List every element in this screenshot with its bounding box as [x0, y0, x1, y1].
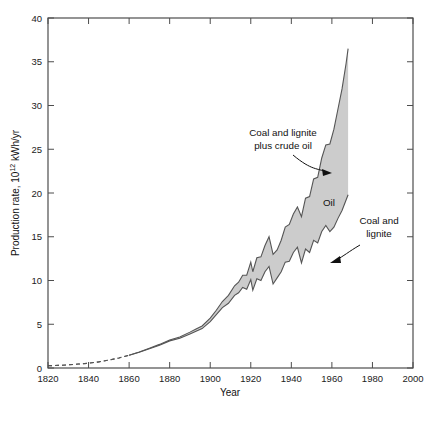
y-axis-tick-labels: 0510152025303540 — [31, 13, 42, 374]
total-annotation-line2: plus crude oil — [254, 140, 312, 151]
y-tick-label: 20 — [31, 188, 42, 199]
x-tick-label: 1840 — [78, 373, 99, 384]
y-tick-label: 30 — [31, 100, 42, 111]
total-annotation-line1: Coal and lignite — [249, 127, 317, 138]
x-axis-tick-labels: 1820184018601880190019201940196019802000 — [37, 373, 423, 384]
figure-caption-ghost — [0, 413, 436, 422]
x-tick-label: 1940 — [281, 373, 302, 384]
x-tick-label: 1880 — [159, 373, 180, 384]
y-tick-label: 5 — [37, 319, 42, 330]
x-tick-label: 2000 — [402, 373, 423, 384]
y-tick-label: 40 — [31, 13, 42, 24]
production-rate-chart: 1820184018601880190019201940196019802000… — [0, 0, 436, 422]
y-tick-label: 35 — [31, 56, 42, 67]
coal-annotation-line2: lignite — [366, 228, 392, 239]
x-tick-label: 1960 — [321, 373, 342, 384]
plot-background — [48, 18, 413, 368]
x-axis-title: Year — [220, 387, 241, 398]
y-tick-label: 10 — [31, 275, 42, 286]
y-axis-title: Production rate, 1012 kWh/yr — [9, 129, 21, 256]
x-tick-label: 1900 — [200, 373, 221, 384]
y-tick-label: 25 — [31, 144, 42, 155]
x-tick-label: 1920 — [240, 373, 261, 384]
x-tick-label: 1980 — [362, 373, 383, 384]
y-tick-label: 0 — [37, 363, 42, 374]
x-tick-label: 1820 — [37, 373, 58, 384]
coal-annotation-line1: Coal and — [359, 215, 398, 226]
figure-container: 1820184018601880190019201940196019802000… — [0, 0, 436, 422]
y-tick-label: 15 — [31, 231, 42, 242]
oil-annotation: Oil — [323, 197, 335, 208]
x-tick-label: 1860 — [119, 373, 140, 384]
